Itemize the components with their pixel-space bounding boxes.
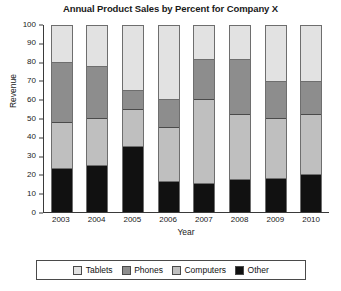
bar-segment-tablets[interactable] (230, 26, 250, 59)
bar-2003[interactable] (51, 25, 73, 212)
x-axis: 20032004200520062007200820092010 (43, 214, 329, 228)
y-axis-tick: 70 (0, 81, 43, 82)
y-axis-tick-label: 30 (27, 151, 36, 161)
x-axis-tick-label: 2008 (229, 214, 251, 228)
legend-item-other[interactable]: Other (235, 265, 269, 275)
bar-segment-phones[interactable] (159, 100, 179, 128)
plot-area (43, 25, 329, 213)
bar-segment-tablets[interactable] (159, 26, 179, 100)
bar-segment-other[interactable] (159, 182, 179, 212)
bar-segment-tablets[interactable] (123, 26, 143, 91)
legend-swatch-icon (73, 266, 82, 275)
bar-2010[interactable] (300, 25, 322, 212)
y-axis-tick-label: 70 (27, 75, 36, 85)
legend-item-computers[interactable]: Computers (172, 265, 226, 275)
y-axis-tick: 40 (0, 137, 43, 138)
legend-swatch-icon (235, 266, 244, 275)
y-axis-tick-label: 0 (32, 207, 36, 217)
chart-legend: TabletsPhonesComputersOther (36, 260, 306, 280)
bar-2009[interactable] (265, 25, 287, 212)
bar-segment-computers[interactable] (123, 110, 143, 147)
bar-2008[interactable] (229, 25, 251, 212)
bar-segment-tablets[interactable] (52, 26, 72, 63)
bar-segment-other[interactable] (266, 179, 286, 212)
y-axis-tick-label: 100 (23, 19, 36, 29)
y-axis-tick-label: 20 (27, 169, 36, 179)
bar-segment-computers[interactable] (159, 128, 179, 182)
bar-2007[interactable] (193, 25, 215, 212)
y-axis-tick-label: 40 (27, 132, 36, 142)
bar-segment-computers[interactable] (301, 115, 321, 175)
bar-segment-tablets[interactable] (301, 26, 321, 82)
y-axis: 0102030405060708090100 (0, 25, 43, 213)
bar-segment-other[interactable] (123, 147, 143, 212)
bar-segment-tablets[interactable] (87, 26, 107, 67)
chart-figure: Annual Product Sales by Percent for Comp… (0, 0, 341, 291)
y-axis-tick: 90 (0, 43, 43, 44)
x-axis-tick-label: 2010 (300, 214, 322, 228)
y-axis-tick: 30 (0, 156, 43, 157)
bar-segment-tablets[interactable] (194, 26, 214, 59)
legend-item-tablets[interactable]: Tablets (73, 265, 112, 275)
legend-label: Other (248, 265, 269, 275)
bar-segment-phones[interactable] (266, 82, 286, 119)
x-axis-tick-label: 2004 (86, 214, 108, 228)
bar-segment-other[interactable] (230, 180, 250, 212)
legend-label: Computers (184, 265, 226, 275)
y-axis-tick-label: 90 (27, 38, 36, 48)
legend-swatch-icon (122, 266, 131, 275)
y-axis-tick-label: 80 (27, 57, 36, 67)
legend-label: Phones (134, 265, 163, 275)
bar-2005[interactable] (122, 25, 144, 212)
x-axis-tick-label: 2006 (157, 214, 179, 228)
chart-title: Annual Product Sales by Percent for Comp… (0, 3, 341, 14)
bar-group (44, 25, 329, 212)
bar-segment-computers[interactable] (266, 119, 286, 179)
bar-segment-computers[interactable] (230, 115, 250, 180)
y-axis-tick: 10 (0, 194, 43, 195)
bar-segment-other[interactable] (194, 184, 214, 212)
bar-segment-computers[interactable] (87, 119, 107, 166)
y-axis-tick: 80 (0, 62, 43, 63)
legend-item-phones[interactable]: Phones (122, 265, 163, 275)
legend-label: Tablets (86, 265, 113, 275)
y-axis-tick: 20 (0, 175, 43, 176)
x-axis-tick-label: 2003 (50, 214, 72, 228)
bar-segment-phones[interactable] (52, 63, 72, 123)
bar-2004[interactable] (86, 25, 108, 212)
bar-segment-phones[interactable] (87, 67, 107, 119)
x-axis-label: Year (43, 227, 329, 237)
legend-swatch-icon (172, 266, 181, 275)
y-axis-tick: 100 (0, 25, 43, 26)
bar-segment-other[interactable] (301, 175, 321, 212)
bar-segment-tablets[interactable] (266, 26, 286, 82)
bar-segment-computers[interactable] (194, 100, 214, 184)
bar-segment-phones[interactable] (194, 60, 214, 101)
y-axis-label: Revenue (8, 56, 18, 126)
y-axis-tick-label: 60 (27, 94, 36, 104)
y-axis-tick: 0 (0, 213, 43, 214)
bar-segment-phones[interactable] (301, 82, 321, 115)
x-axis-tick-label: 2005 (121, 214, 143, 228)
bar-segment-computers[interactable] (52, 123, 72, 170)
bar-segment-phones[interactable] (123, 91, 143, 110)
bar-segment-other[interactable] (87, 166, 107, 213)
y-axis-tick-label: 50 (27, 113, 36, 123)
x-axis-tick-label: 2007 (193, 214, 215, 228)
bar-segment-other[interactable] (52, 169, 72, 212)
x-axis-tick-label: 2009 (264, 214, 286, 228)
y-axis-tick: 50 (0, 119, 43, 120)
bar-2006[interactable] (158, 25, 180, 212)
y-axis-tick: 60 (0, 100, 43, 101)
bar-segment-phones[interactable] (230, 60, 250, 116)
y-axis-tick-label: 10 (27, 188, 36, 198)
